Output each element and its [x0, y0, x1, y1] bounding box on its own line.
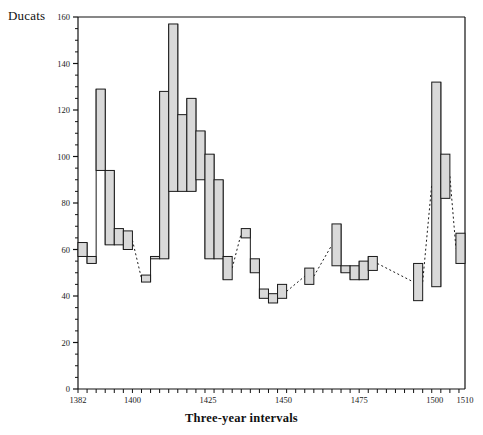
range-bar: [359, 261, 368, 280]
range-bar: [332, 224, 341, 266]
dashed-connectors: [87, 24, 456, 303]
range-bar: [223, 256, 232, 279]
svg-text:1475: 1475: [351, 395, 368, 405]
dashed-connector: [287, 276, 305, 291]
range-bar: [114, 229, 123, 245]
range-bar: [368, 256, 377, 270]
svg-text:1450: 1450: [275, 395, 292, 405]
y-axis: 020406080100120140160: [57, 12, 465, 394]
svg-text:1500: 1500: [426, 395, 443, 405]
range-bar: [268, 294, 277, 303]
svg-text:100: 100: [57, 152, 70, 162]
svg-text:140: 140: [57, 59, 70, 69]
svg-text:1510: 1510: [457, 395, 474, 405]
range-bar: [151, 256, 160, 258]
svg-text:40: 40: [62, 291, 71, 301]
range-bar: [123, 231, 132, 250]
range-bar: [305, 268, 314, 284]
range-bar: [350, 266, 359, 280]
svg-text:0: 0: [66, 384, 70, 394]
range-bars: [78, 24, 465, 303]
svg-text:80: 80: [62, 198, 71, 208]
range-bar: [414, 263, 423, 300]
svg-text:20: 20: [62, 338, 71, 348]
range-bar: [441, 154, 450, 198]
range-bar: [341, 266, 350, 273]
dashed-connector: [314, 245, 332, 276]
svg-text:1400: 1400: [124, 395, 141, 405]
range-bar: [250, 259, 259, 273]
range-bar: [432, 82, 441, 287]
range-bar: [187, 98, 196, 191]
svg-text:1425: 1425: [200, 395, 217, 405]
range-bar: [96, 89, 105, 170]
dashed-connector: [232, 233, 241, 268]
dashed-connector: [423, 184, 432, 282]
svg-text:1382: 1382: [70, 395, 87, 405]
dashed-connector: [450, 176, 456, 248]
ducats-range-chart: Ducats Three-year intervals 020406080100…: [0, 0, 483, 435]
range-bar: [205, 154, 214, 259]
range-bar: [78, 243, 87, 257]
x-axis: 1382140014251450147515001510: [70, 389, 474, 405]
dashed-connector: [377, 263, 413, 282]
range-bar: [87, 256, 96, 263]
range-bar: [169, 24, 178, 191]
dashed-connector: [132, 240, 141, 278]
range-bar: [214, 180, 223, 259]
range-bar: [196, 131, 205, 180]
range-bar: [456, 233, 465, 263]
svg-text:160: 160: [57, 12, 70, 22]
range-bar: [259, 289, 268, 298]
plot-area: 020406080100120140160 138214001425145014…: [0, 0, 483, 435]
range-bar: [241, 229, 250, 238]
range-bar: [160, 91, 169, 258]
range-bar: [278, 284, 287, 298]
range-bar: [178, 115, 187, 192]
svg-text:120: 120: [57, 105, 70, 115]
range-bar: [141, 275, 150, 282]
svg-text:60: 60: [62, 245, 71, 255]
range-bar: [105, 170, 114, 244]
